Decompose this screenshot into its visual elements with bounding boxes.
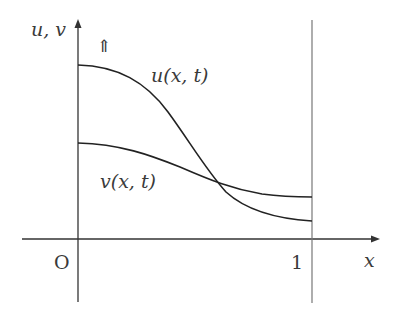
- y-axis-arrow-icon: [75, 19, 82, 28]
- x-tick-label-1: 1: [291, 253, 303, 272]
- x-axis-label: x: [364, 251, 375, 270]
- curve-u-label: u(x, t): [151, 66, 209, 85]
- y-axis-label: u, v: [31, 20, 66, 39]
- curve-v-label: v(x, t): [100, 172, 156, 191]
- origin-label: O: [54, 253, 70, 272]
- upward-arrow-icon: ⇑: [97, 38, 111, 55]
- curve-u: [78, 65, 312, 221]
- x-axis-arrow-icon: [371, 236, 380, 243]
